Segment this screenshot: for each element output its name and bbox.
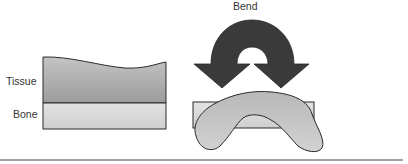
bend-label: Bend [233, 0, 258, 12]
tissue-label: Tissue [6, 75, 37, 87]
bent-specimen [193, 92, 323, 152]
unbent-specimen [43, 57, 166, 129]
bone-label: Bone [13, 108, 38, 120]
bone-layer [43, 103, 166, 129]
diagram-canvas [0, 0, 408, 164]
bend-arrow-icon [194, 20, 309, 88]
tissue-layer [43, 57, 166, 103]
